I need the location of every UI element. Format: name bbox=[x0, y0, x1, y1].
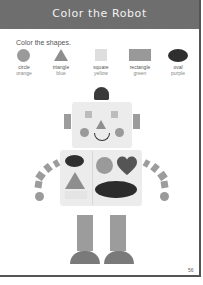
circle-icon bbox=[17, 49, 30, 62]
robot-body-oval-large[interactable] bbox=[95, 181, 137, 198]
robot-right-foot-semicircle[interactable] bbox=[104, 251, 134, 264]
robot-left-cheek-circle[interactable] bbox=[80, 128, 89, 137]
robot-left-hand-circle[interactable] bbox=[35, 192, 44, 201]
robot-left-foot-semicircle[interactable] bbox=[70, 251, 100, 264]
robot-body-grid bbox=[65, 191, 87, 199]
rectangle-icon bbox=[129, 49, 151, 61]
robot-left-arm-segment[interactable] bbox=[43, 163, 53, 173]
robot-body-oval-small[interactable] bbox=[65, 155, 84, 167]
banner-scalloped-edge bbox=[0, 27, 199, 31]
square-icon bbox=[95, 49, 107, 61]
key-triangle: triangle blue bbox=[43, 49, 79, 76]
robot-left-eye-square[interactable] bbox=[85, 111, 92, 118]
robot-right-cheek-circle[interactable] bbox=[115, 128, 124, 137]
robot-right-arm-segment[interactable] bbox=[143, 159, 151, 168]
robot-right-hand-circle[interactable] bbox=[160, 192, 169, 201]
key-circle: circle orange bbox=[6, 49, 42, 76]
robot-right-arm-segment[interactable] bbox=[160, 180, 168, 188]
page-number: 56 bbox=[188, 267, 194, 273]
worksheet-page: Color the Robot Color the shapes. circle… bbox=[0, 0, 201, 277]
key-color-label: orange bbox=[6, 70, 42, 76]
robot-left-leg-rectangle[interactable] bbox=[77, 215, 93, 251]
triangle-icon bbox=[54, 49, 68, 61]
robot-right-arm-segment[interactable] bbox=[150, 163, 160, 173]
oval-icon bbox=[168, 49, 188, 62]
key-color-label: blue bbox=[43, 70, 79, 76]
robot-antenna-rectangle[interactable] bbox=[94, 87, 109, 100]
robot-left-arm-segment[interactable] bbox=[34, 180, 42, 188]
robot-right-leg-rectangle[interactable] bbox=[110, 215, 126, 251]
robot-nose-triangle[interactable] bbox=[96, 120, 106, 129]
robot-right-eye-square[interactable] bbox=[111, 111, 118, 118]
robot-body-triangle[interactable] bbox=[65, 172, 85, 189]
robot-body-circle[interactable] bbox=[96, 157, 113, 174]
page-title: Color the Robot bbox=[0, 7, 199, 20]
robot-heart[interactable] bbox=[116, 155, 138, 177]
key-rectangle: rectangle green bbox=[122, 49, 158, 76]
key-square: square yellow bbox=[83, 49, 119, 76]
robot-right-ear-rectangle[interactable] bbox=[133, 114, 140, 129]
robot-left-arm-segment[interactable] bbox=[35, 171, 46, 181]
instructions-text: Color the shapes. bbox=[16, 39, 71, 46]
key-color-label: green bbox=[122, 70, 158, 76]
body-divider bbox=[92, 151, 93, 205]
robot-left-ear-rectangle[interactable] bbox=[64, 114, 71, 129]
title-banner: Color the Robot bbox=[0, 0, 199, 29]
key-oval: oval purple bbox=[160, 49, 196, 76]
key-color-label: yellow bbox=[83, 70, 119, 76]
key-color-label: purple bbox=[160, 70, 196, 76]
